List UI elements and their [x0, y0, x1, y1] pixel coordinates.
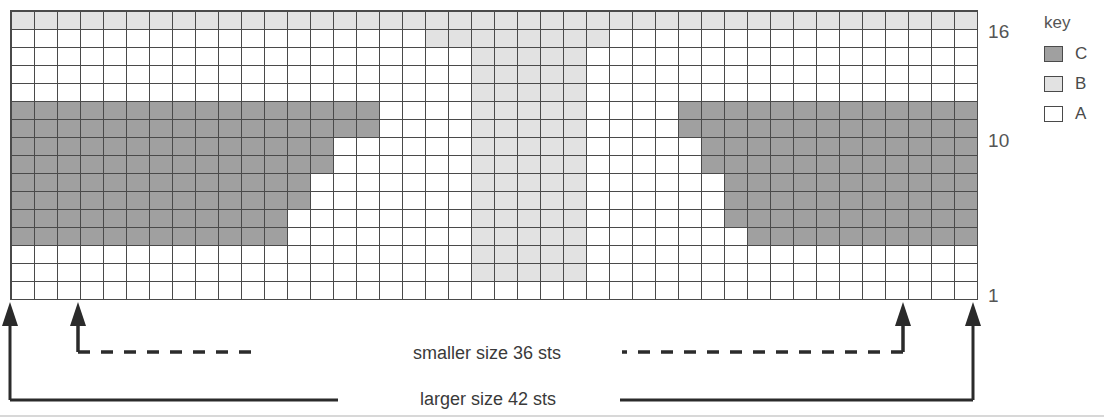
chart-cell	[518, 246, 541, 264]
chart-cell	[495, 156, 518, 174]
chart-cell	[610, 228, 633, 246]
chart-cell	[219, 282, 242, 300]
chart-cell	[840, 30, 863, 48]
chart-cell	[380, 264, 403, 282]
chart-cell	[426, 138, 449, 156]
chart-cell	[265, 192, 288, 210]
chart-cell	[840, 84, 863, 102]
chart-cell	[104, 210, 127, 228]
chart-cell	[564, 174, 587, 192]
chart-cell	[886, 228, 909, 246]
chart-cell	[886, 192, 909, 210]
chart-cell	[472, 102, 495, 120]
chart-cell	[748, 30, 771, 48]
chart-cell	[541, 282, 564, 300]
chart-cell	[909, 138, 932, 156]
chart-cell	[955, 192, 978, 210]
chart-cell	[495, 210, 518, 228]
chart-cell	[587, 156, 610, 174]
chart-cell	[35, 246, 58, 264]
chart-cell	[104, 246, 127, 264]
key-swatch-b-icon	[1044, 76, 1063, 92]
chart-cell	[633, 174, 656, 192]
chart-cell	[173, 210, 196, 228]
chart-cell	[587, 30, 610, 48]
chart-cell	[35, 66, 58, 84]
chart-cell	[265, 156, 288, 174]
chart-cell	[449, 48, 472, 66]
chart-cell	[955, 156, 978, 174]
chart-cell	[748, 102, 771, 120]
chart-cell	[863, 30, 886, 48]
chart-cell	[794, 228, 817, 246]
chart-cell	[127, 138, 150, 156]
chart-cell	[771, 84, 794, 102]
chart-cell	[380, 120, 403, 138]
chart-cell	[679, 30, 702, 48]
key-title: key	[1044, 14, 1104, 31]
chart-cell	[495, 246, 518, 264]
chart-cell	[518, 30, 541, 48]
chart-cell	[403, 156, 426, 174]
chart-cell	[633, 264, 656, 282]
chart-cell	[242, 30, 265, 48]
chart-cell	[426, 102, 449, 120]
chart-cell	[633, 138, 656, 156]
chart-cell	[35, 102, 58, 120]
chart-cell	[679, 12, 702, 30]
chart-cell	[311, 228, 334, 246]
chart-cell	[104, 174, 127, 192]
chart-grid	[10, 10, 978, 300]
chart-cell	[150, 48, 173, 66]
chart-cell	[173, 174, 196, 192]
chart-cell	[242, 264, 265, 282]
smaller-size-arrow-right-icon	[895, 302, 911, 326]
chart-cell	[679, 66, 702, 84]
chart-cell	[771, 30, 794, 48]
chart-cell	[81, 156, 104, 174]
chart-cell	[104, 138, 127, 156]
chart-cell	[219, 84, 242, 102]
chart-cell	[541, 228, 564, 246]
chart-cell	[564, 282, 587, 300]
chart-cell	[564, 66, 587, 84]
chart-cell	[426, 282, 449, 300]
chart-cell	[403, 66, 426, 84]
chart-cell	[817, 282, 840, 300]
chart-cell	[449, 174, 472, 192]
chart-cell	[518, 192, 541, 210]
chart-cell	[541, 246, 564, 264]
chart-cell	[311, 12, 334, 30]
chart-cell	[334, 282, 357, 300]
chart-cell	[380, 48, 403, 66]
chart-cell	[633, 48, 656, 66]
chart-cell	[702, 12, 725, 30]
larger-size-arrow-right-icon	[965, 302, 981, 326]
chart-cell	[311, 48, 334, 66]
chart-cell	[863, 66, 886, 84]
chart-cell	[840, 102, 863, 120]
chart-cell	[449, 12, 472, 30]
chart-cell	[702, 246, 725, 264]
chart-cell	[748, 84, 771, 102]
chart-cell	[955, 102, 978, 120]
chart-cell	[771, 156, 794, 174]
chart-cell	[771, 120, 794, 138]
chart-cell	[403, 138, 426, 156]
chart-cell	[541, 264, 564, 282]
chart-cell	[12, 66, 35, 84]
chart-cell	[242, 192, 265, 210]
chart-cell	[840, 210, 863, 228]
chart-cell	[564, 246, 587, 264]
chart-cell	[104, 156, 127, 174]
chart-cell	[242, 120, 265, 138]
chart-cell	[219, 138, 242, 156]
chart-cell	[794, 48, 817, 66]
chart-cell	[495, 192, 518, 210]
chart-cell	[380, 210, 403, 228]
chart-cell	[863, 264, 886, 282]
chart-cell	[794, 84, 817, 102]
chart-cell	[794, 210, 817, 228]
chart-cell	[886, 156, 909, 174]
chart-cell	[311, 120, 334, 138]
